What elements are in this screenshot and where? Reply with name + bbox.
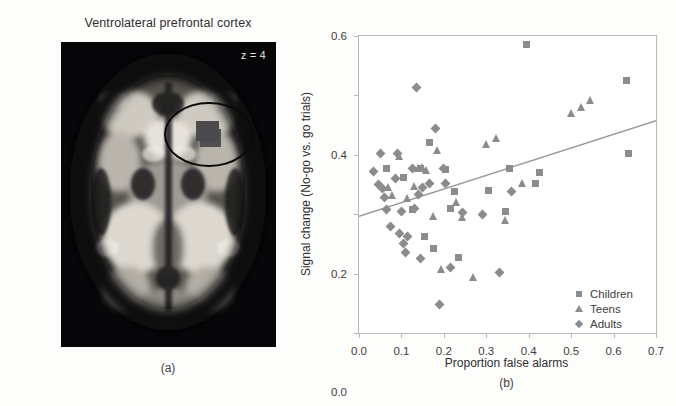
data-point-teens [577, 103, 585, 111]
data-point-adults [507, 187, 517, 197]
panel-a-brain-image: Ventrolateral prefrontal cortex [18, 16, 318, 386]
data-point-teens [567, 109, 575, 117]
data-point-adults [375, 148, 385, 158]
x-tick-mark: 0.1 [401, 333, 402, 338]
triangle-marker-icon [573, 305, 585, 312]
data-point-teens [501, 216, 509, 224]
data-point-adults [435, 300, 445, 310]
y-tick-mark: 0.6 [354, 36, 359, 37]
data-point-children [623, 77, 630, 84]
data-point-children [383, 165, 390, 172]
x-tick-mark: 0.5 [571, 333, 572, 338]
x-axis-title: Proportion false alarms [358, 356, 655, 370]
data-point-adults [401, 248, 411, 258]
x-tick-mark: 0.7 [656, 333, 657, 338]
x-tick-mark: 0.2 [444, 333, 445, 338]
figure-canvas: Ventrolateral prefrontal cortex [0, 0, 676, 406]
panel-b-scatter-plot: Signal change (No-go vs. go trials) 0.60… [296, 12, 668, 394]
data-point-children [532, 180, 539, 187]
data-point-children [485, 187, 492, 194]
x-tick-mark: 0.3 [486, 333, 487, 338]
roi-ellipse-annotation [164, 102, 254, 167]
panel-a-title: Ventrolateral prefrontal cortex [18, 16, 318, 30]
data-point-adults [494, 267, 504, 277]
chart-legend: ChildrenTeensAdults [573, 286, 633, 331]
y-axis-title-text: Signal change (No-go vs. go trials) [299, 91, 313, 275]
data-point-teens [429, 212, 437, 220]
x-tick-mark: 0.0 [359, 333, 360, 338]
legend-item-adults: Adults [573, 316, 633, 331]
x-tick-mark: 0.6 [614, 333, 615, 338]
data-point-adults [441, 178, 451, 188]
data-point-teens [469, 273, 477, 281]
plot-area: 0.60.40.20.0-0.2-0.4 0.00.10.20.30.40.50… [358, 35, 657, 334]
data-point-teens [452, 198, 460, 206]
data-point-teens [403, 194, 411, 202]
data-point-children [523, 41, 530, 48]
data-point-adults [390, 174, 400, 184]
legend-item-teens: Teens [573, 301, 633, 316]
data-point-adults [416, 254, 426, 264]
y-tick-mark: 0.0 [354, 214, 359, 215]
data-point-children [421, 233, 428, 240]
brain-slice-render [61, 42, 276, 347]
data-point-children [451, 188, 458, 195]
data-point-children [400, 174, 407, 181]
data-point-adults [369, 166, 379, 176]
y-tick-mark: 0.2 [354, 155, 359, 156]
data-point-teens [422, 166, 430, 174]
y-axis-title: Signal change (No-go vs. go trials) [298, 35, 314, 332]
data-point-adults [430, 123, 440, 133]
panel-b-caption-label: (b) [358, 376, 655, 390]
data-point-teens [492, 134, 500, 142]
legend-label: Children [590, 288, 633, 300]
legend-label: Adults [590, 318, 622, 330]
y-tick-mark: -0.2 [354, 274, 359, 275]
data-point-adults [445, 263, 455, 273]
y-tick-label: 0.2 [331, 268, 347, 280]
data-point-adults [382, 205, 392, 215]
data-point-children [506, 165, 513, 172]
data-point-adults [386, 221, 396, 231]
data-point-adults [396, 206, 406, 216]
square-marker-icon [573, 291, 585, 297]
data-point-teens [388, 191, 396, 199]
data-point-children [430, 245, 437, 252]
data-point-children [455, 254, 462, 261]
data-point-children [426, 139, 433, 146]
legend-marker-shape [575, 319, 583, 327]
diamond-marker-icon [573, 321, 585, 327]
data-point-adults [411, 83, 421, 93]
legend-marker-shape [576, 291, 582, 297]
y-tick-label: 0.6 [331, 30, 347, 42]
brain-scan-image: z = 4 [61, 42, 276, 347]
data-point-teens [437, 265, 445, 273]
slice-coordinate-label: z = 4 [241, 49, 266, 61]
panel-a-caption-label: (a) [18, 361, 318, 375]
y-tick-label: 0.4 [331, 149, 347, 161]
data-point-teens [586, 96, 594, 104]
x-tick-mark: 0.4 [529, 333, 530, 338]
data-point-adults [477, 209, 487, 219]
y-tick-label: 0.0 [331, 386, 347, 398]
data-point-teens [410, 182, 418, 190]
legend-label: Teens [590, 303, 621, 315]
data-point-children [536, 169, 543, 176]
y-tick-mark: 0.4 [354, 95, 359, 96]
brain-slice-svg [61, 42, 276, 347]
data-point-children [625, 150, 632, 157]
data-point-teens [433, 146, 441, 154]
data-point-teens [518, 179, 526, 187]
legend-item-children: Children [573, 286, 633, 301]
data-point-children [502, 208, 509, 215]
data-point-teens [482, 140, 490, 148]
legend-marker-shape [575, 305, 583, 312]
